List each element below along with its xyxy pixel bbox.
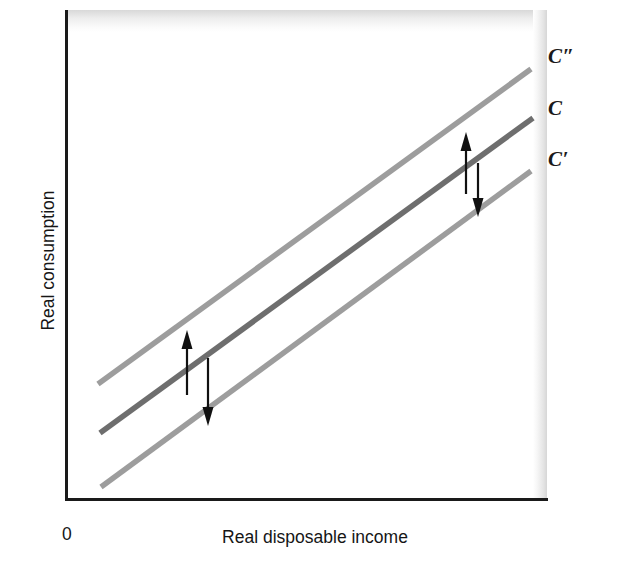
curve-label-c-double-prime: C″ [548, 44, 575, 69]
plot-frame-right-shading [533, 10, 547, 499]
plot-area [65, 10, 545, 498]
curve-label-c: C [548, 96, 563, 121]
origin-label: 0 [62, 524, 72, 545]
x-axis-title: Real disposable income [185, 527, 445, 548]
y-axis-line [65, 10, 68, 501]
y-axis-title: Real consumption [38, 131, 59, 391]
consumption-function-figure: C″ C C′ Real consumption 0 Real disposab… [0, 0, 618, 566]
plot-frame-top-shading [68, 10, 545, 32]
x-axis-line [65, 498, 548, 501]
curve-label-c-prime: C′ [548, 147, 569, 172]
